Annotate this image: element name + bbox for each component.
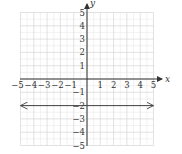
- y-tick-label: −1: [72, 87, 85, 97]
- x-tick-label: −4: [25, 80, 38, 90]
- x-tick-label: 2: [111, 80, 116, 90]
- coordinate-plane: x y −5−4−3−2−112345 54321−1−2−3−4−5: [0, 0, 182, 154]
- y-tick-label: −5: [72, 141, 85, 151]
- x-tick-label: 5: [151, 80, 156, 90]
- x-tick-label: −2: [51, 80, 64, 90]
- x-tick-label: −3: [38, 80, 51, 90]
- x-tick-label: 3: [124, 80, 129, 90]
- y-axis-label: y: [89, 0, 96, 8]
- y-tick-label: 4: [80, 21, 85, 31]
- x-tick-label: −5: [11, 80, 24, 90]
- x-tick-label: 4: [137, 80, 142, 90]
- y-tick-label: −3: [72, 114, 85, 124]
- y-tick-label: 3: [80, 34, 85, 44]
- y-tick-label: −4: [72, 127, 85, 137]
- y-tick-label: 5: [80, 8, 85, 18]
- y-tick-label: 2: [80, 47, 85, 57]
- y-tick-label: 1: [80, 61, 85, 71]
- x-tick-label: 1: [98, 80, 103, 90]
- x-axis-label: x: [165, 74, 170, 84]
